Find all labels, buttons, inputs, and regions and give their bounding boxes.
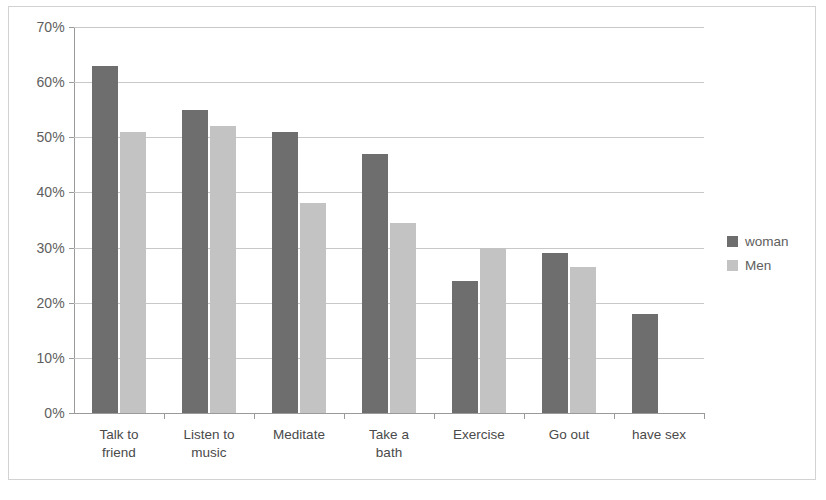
- y-axis-tick: [69, 137, 74, 138]
- x-axis-tick: [524, 413, 525, 419]
- legend-item-men: Men: [727, 253, 813, 277]
- legend-label-woman: woman: [745, 234, 789, 249]
- legend-label-men: Men: [745, 258, 771, 273]
- y-axis-label: 60%: [36, 74, 65, 90]
- gridline: [74, 192, 704, 193]
- x-axis-category-label: Talk to friend: [71, 426, 167, 462]
- y-axis-label: 20%: [36, 295, 65, 311]
- gridline: [74, 137, 704, 138]
- gridline: [74, 248, 704, 249]
- bar-woman: [632, 314, 658, 413]
- x-axis-category-label: Exercise: [431, 426, 527, 444]
- x-axis-category-label: have sex: [611, 426, 707, 444]
- bar-woman: [272, 132, 298, 413]
- x-axis-tick: [704, 413, 705, 419]
- chart-legend: woman Men: [727, 229, 813, 277]
- y-axis-tick: [69, 358, 74, 359]
- y-axis-line: [74, 27, 75, 413]
- legend-item-woman: woman: [727, 229, 813, 253]
- y-axis-tick: [69, 82, 74, 83]
- plot-area: 0%10%20%30%40%50%60%70%Talk to friendLis…: [74, 27, 704, 413]
- bar-men: [120, 132, 146, 413]
- gridline: [74, 82, 704, 83]
- y-axis-label: 40%: [36, 184, 65, 200]
- y-axis-tick: [69, 303, 74, 304]
- y-axis-tick: [69, 248, 74, 249]
- bar-woman: [362, 154, 388, 413]
- x-axis-tick: [434, 413, 435, 419]
- gridline: [74, 27, 704, 28]
- y-axis-label: 0%: [44, 405, 65, 421]
- x-axis-tick: [164, 413, 165, 419]
- x-axis-category-label: Take a bath: [341, 426, 437, 462]
- y-axis-tick: [69, 413, 74, 414]
- x-axis-category-label: Meditate: [251, 426, 347, 444]
- bar-men: [300, 203, 326, 413]
- gridline: [74, 303, 704, 304]
- legend-swatch-woman-icon: [727, 236, 738, 247]
- bar-men: [390, 223, 416, 413]
- y-axis-tick: [69, 192, 74, 193]
- bar-woman: [92, 66, 118, 413]
- x-axis-line: [74, 413, 704, 414]
- y-axis-label: 50%: [36, 129, 65, 145]
- y-axis-label: 10%: [36, 350, 65, 366]
- y-axis-tick: [69, 27, 74, 28]
- bar-men: [210, 126, 236, 413]
- bar-men: [570, 267, 596, 413]
- bar-men: [480, 248, 506, 413]
- x-axis-category-label: Go out: [521, 426, 617, 444]
- legend-swatch-men-icon: [727, 260, 738, 271]
- y-axis-label: 70%: [36, 19, 65, 35]
- x-axis-tick: [614, 413, 615, 419]
- bar-woman: [182, 110, 208, 413]
- x-axis-tick: [254, 413, 255, 419]
- y-axis-label: 30%: [36, 240, 65, 256]
- bar-woman: [452, 281, 478, 413]
- chart-frame: 0%10%20%30%40%50%60%70%Talk to friendLis…: [8, 6, 816, 480]
- x-axis-tick: [344, 413, 345, 419]
- x-axis-category-label: Listen to music: [161, 426, 257, 462]
- gridline: [74, 358, 704, 359]
- bar-woman: [542, 253, 568, 413]
